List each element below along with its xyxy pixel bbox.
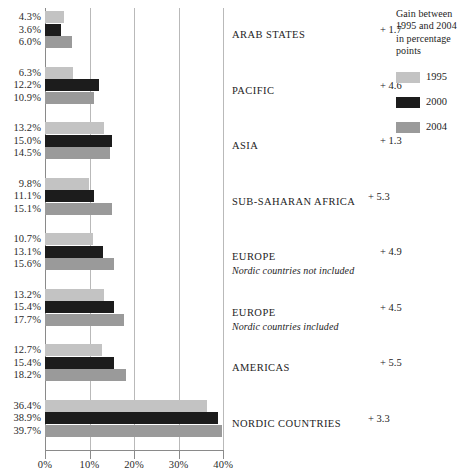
bar-sub-saharan-africa-1995 <box>45 178 89 190</box>
legend-item-2000: 2000 <box>396 97 463 122</box>
legend-item-2004: 2004 <box>396 122 463 147</box>
value-label-sub-saharan-africa-1995: 9.8% <box>0 178 41 190</box>
value-label-americas-2000: 15.4% <box>0 357 41 369</box>
bar-pacific-2000 <box>45 79 99 91</box>
bar-europe-2004 <box>45 314 124 326</box>
value-label-nordic-countries-2004: 39.7% <box>0 425 41 437</box>
legend-swatch-2000 <box>396 97 420 108</box>
bar-europe-1995 <box>45 289 104 301</box>
bar-arab-states-2000 <box>45 24 61 36</box>
x-tick-label-0: 0% <box>25 459 65 470</box>
bar-europe-2000 <box>45 301 114 313</box>
x-tick-10 <box>90 450 91 459</box>
region-name: ASIA <box>232 140 258 151</box>
region-name: AMERICAS <box>232 362 290 373</box>
region-subtitle: Nordic countries included <box>232 321 402 332</box>
legend-title: Gain between 1995 and 2004 in percentage… <box>396 8 463 58</box>
legend-items: 199520002004 <box>396 72 463 147</box>
bar-nordic-countries-1995 <box>45 400 207 412</box>
value-label-pacific-1995: 6.3% <box>0 67 41 79</box>
region-label-pacific: PACIFIC+ 4.6 <box>232 80 402 98</box>
region-name: SUB-SAHARAN AFRICA <box>232 196 355 207</box>
region-label-europe: EUROPE+ 4.5Nordic countries included <box>232 302 402 332</box>
x-tick-label-40: 40% <box>203 459 243 470</box>
bar-americas-1995 <box>45 344 102 356</box>
region-gain: + 3.3 <box>368 413 390 424</box>
bar-americas-2000 <box>45 357 114 369</box>
region-label-americas: AMERICAS+ 5.5 <box>232 357 402 375</box>
legend-swatch-2004 <box>396 122 420 133</box>
value-label-arab-states-1995: 4.3% <box>0 11 41 23</box>
x-tick-40 <box>223 450 224 459</box>
value-label-nordic-countries-1995: 36.4% <box>0 400 41 412</box>
legend-swatch-1995 <box>396 72 420 83</box>
bar-nordic-countries-2000 <box>45 412 218 424</box>
bar-sub-saharan-africa-2004 <box>45 203 112 215</box>
bar-pacific-2004 <box>45 92 94 104</box>
region-label-europe: EUROPE+ 4.9Nordic countries not included <box>232 246 402 276</box>
legend-label-2000: 2000 <box>426 96 447 107</box>
gridline-30 <box>179 8 180 450</box>
bar-europe-1995 <box>45 233 93 245</box>
value-label-europe-2000: 15.4% <box>0 301 41 313</box>
legend-label-2004: 2004 <box>426 121 447 132</box>
value-label-europe-1995: 10.7% <box>0 233 41 245</box>
bar-arab-states-1995 <box>45 11 64 23</box>
plot-area <box>45 0 224 450</box>
bar-europe-2000 <box>45 246 103 258</box>
gridline-20 <box>134 8 135 450</box>
region-label-asia: ASIA+ 1.3 <box>232 135 402 153</box>
x-tick-label-30: 30% <box>159 459 199 470</box>
region-gain: + 5.5 <box>380 357 402 368</box>
region-name: ARAB STATES <box>232 29 305 40</box>
bar-asia-1995 <box>45 122 104 134</box>
bar-chart: 0%10%20%30%40% 4.3%3.6%6.0%6.3%12.2%10.9… <box>0 0 463 473</box>
value-label-americas-2004: 18.2% <box>0 369 41 381</box>
region-name: PACIFIC <box>232 85 274 96</box>
value-label-arab-states-2004: 6.0% <box>0 36 41 48</box>
gridline-10 <box>90 8 91 450</box>
value-label-asia-1995: 13.2% <box>0 122 41 134</box>
x-tick-30 <box>179 450 180 459</box>
value-label-europe-1995: 13.2% <box>0 289 41 301</box>
bar-asia-2000 <box>45 135 112 147</box>
region-label-sub-saharan-africa: SUB-SAHARAN AFRICA+ 5.3 <box>232 191 402 209</box>
value-label-europe-2000: 13.1% <box>0 246 41 258</box>
value-label-sub-saharan-africa-2004: 15.1% <box>0 203 41 215</box>
bar-pacific-1995 <box>45 67 73 79</box>
x-tick-label-10: 10% <box>70 459 110 470</box>
bar-asia-2004 <box>45 147 110 159</box>
value-label-pacific-2004: 10.9% <box>0 92 41 104</box>
region-gain: + 5.3 <box>368 191 390 202</box>
bar-arab-states-2004 <box>45 36 72 48</box>
bar-europe-2004 <box>45 258 114 270</box>
region-gain: + 4.5 <box>380 302 402 313</box>
region-name: NORDIC COUNTRIES <box>232 418 341 429</box>
region-name: EUROPE <box>232 251 276 262</box>
region-gain: + 4.9 <box>380 246 402 257</box>
bar-americas-2004 <box>45 369 126 381</box>
x-tick-label-20: 20% <box>114 459 154 470</box>
value-label-nordic-countries-2000: 38.9% <box>0 412 41 424</box>
value-label-americas-1995: 12.7% <box>0 344 41 356</box>
region-label-arab-states: ARAB STATES+ 1.7 <box>232 24 402 42</box>
region-name: EUROPE <box>232 307 276 318</box>
gridline-40 <box>223 8 224 450</box>
region-label-nordic-countries: NORDIC COUNTRIES+ 3.3 <box>232 413 402 431</box>
x-tick-20 <box>134 450 135 459</box>
legend-label-1995: 1995 <box>426 71 447 82</box>
value-label-asia-2004: 14.5% <box>0 147 41 159</box>
value-label-sub-saharan-africa-2000: 11.1% <box>0 190 41 202</box>
value-label-europe-2004: 17.7% <box>0 314 41 326</box>
value-label-asia-2000: 15.0% <box>0 135 41 147</box>
value-label-europe-2004: 15.6% <box>0 258 41 270</box>
legend-item-1995: 1995 <box>396 72 463 97</box>
value-label-arab-states-2000: 3.6% <box>0 24 41 36</box>
value-label-pacific-2000: 12.2% <box>0 79 41 91</box>
bar-sub-saharan-africa-2000 <box>45 190 94 202</box>
x-tick-0 <box>45 450 46 459</box>
legend: Gain between 1995 and 2004 in percentage… <box>396 8 463 147</box>
region-subtitle: Nordic countries not included <box>232 265 402 276</box>
bar-nordic-countries-2004 <box>45 425 222 437</box>
